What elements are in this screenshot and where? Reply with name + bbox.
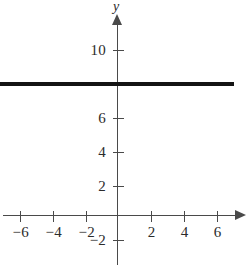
x-tick-mark--4 — [53, 211, 54, 222]
y-tick-label-4: 4 — [66, 144, 106, 161]
y-axis-arrow-icon — [112, 14, 122, 25]
y-tick-mark-2 — [113, 186, 124, 187]
x-axis-line — [3, 215, 237, 216]
coordinate-plane-figure: y −6 −4 −2 2 4 6 10 6 4 2 −2 — [0, 0, 249, 265]
x-axis-arrow-icon — [235, 210, 246, 220]
x-tick-mark-2 — [151, 211, 152, 222]
x-tick-mark-4 — [184, 211, 185, 222]
x-tick-label-2: 2 — [135, 224, 169, 241]
y-tick-mark-4 — [113, 152, 124, 153]
x-tick-label--6: −6 — [4, 224, 38, 241]
data-line-y-equals-8 — [0, 82, 234, 86]
y-tick-label-6: 6 — [66, 110, 106, 127]
y-tick-mark-10 — [113, 50, 124, 51]
x-tick-label-6: 6 — [201, 224, 235, 241]
y-tick-label-10: 10 — [66, 42, 106, 59]
y-tick-label--2: −2 — [66, 232, 106, 249]
x-tick-mark--6 — [20, 211, 21, 222]
x-tick-mark--2 — [86, 211, 87, 222]
x-tick-label-4: 4 — [168, 224, 202, 241]
y-tick-mark-6 — [113, 118, 124, 119]
y-tick-label-2: 2 — [66, 178, 106, 195]
y-tick-mark--2 — [113, 240, 124, 241]
y-axis-label: y — [113, 0, 119, 15]
y-axis-line — [117, 24, 118, 265]
x-tick-mark-6 — [217, 211, 218, 222]
